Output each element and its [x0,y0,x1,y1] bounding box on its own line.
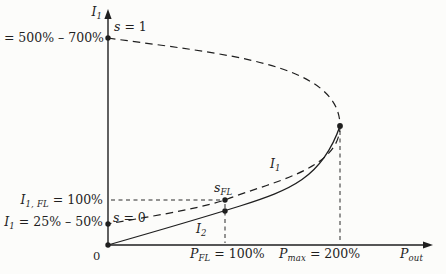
slip-fl-label: sFL [214,181,232,195]
slip-zero-label: s = 0 [113,211,146,225]
x-axis-label-sub: out [408,253,423,263]
origin-value: 0 [93,249,100,263]
noload-current-rest: = 25% – 50% [15,214,103,229]
fl-power-sub: FL [198,253,210,263]
x-axis-arrow-icon [423,241,433,248]
y-axis-label: I1 [91,5,102,19]
slip-zero-rest: = 0 [119,210,145,225]
slip-fl-sub: FL [220,187,232,197]
pmax-fold-dot [337,123,343,129]
max-power-sub: max [287,253,306,263]
i2-fullload-dot [222,208,227,213]
y-axis-label-sub: 1 [96,11,102,21]
noload-current-label: I1 = 25% – 50% [4,215,103,229]
fl-current-label: I1, FL = 100% [21,193,103,207]
slip-one-rest: = 1 [120,19,146,34]
i2-curve-sub: 2 [201,228,207,238]
y-axis-arrow-icon [104,9,111,19]
i2-curve-label: I2 [196,222,207,236]
sfl-dot [222,197,227,202]
i1-curve-sub: 1 [275,163,281,173]
fl-current-rest: = 100% [49,192,103,207]
origin-dot [105,242,110,247]
origin-label: 0 [93,249,100,263]
start-current-dot [105,35,110,40]
slip-one-label: s = 1 [114,20,147,34]
noload-current-dot [105,221,110,226]
fl-power-label: PFL = 100% [190,247,256,261]
fl-current-sub: 1, FL [25,199,48,209]
fl-power-rest: = 100% [210,246,264,261]
max-power-rest: = 200% [306,246,360,261]
motor-current-power-figure: I1 s = 1 I1, start = 500% – 700% I1, FL … [0,0,446,274]
start-current-rest: = 500% – 700% [0,30,104,45]
x-axis-label: Pout [400,247,423,261]
max-power-label: Pmax = 200% [279,247,349,261]
start-current-label: I1, start = 500% – 700% [0,31,104,45]
i1-curve-label: I1 [270,157,281,171]
